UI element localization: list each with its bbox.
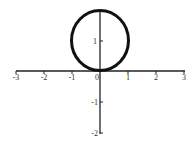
x-tick-labels: -3 -2 -1 0 1 2 3	[13, 73, 186, 82]
y-tick-labels: 1 -1 -2	[91, 37, 98, 138]
x-tick-label: 1	[126, 73, 130, 82]
x-tick-label: -2	[41, 73, 48, 82]
y-tick-label: 1	[93, 37, 97, 46]
x-tick-label: 2	[154, 73, 158, 82]
x-tick-label: 0	[95, 73, 99, 82]
y-tick-label: -1	[91, 98, 98, 107]
y-tick-label: -2	[91, 129, 98, 138]
plot-area: -3 -2 -1 0 1 2 3 1 -1 -2	[0, 0, 194, 149]
x-tick-label: -1	[69, 73, 76, 82]
x-tick-label: -3	[13, 73, 20, 82]
x-tick-label: 3	[182, 73, 186, 82]
